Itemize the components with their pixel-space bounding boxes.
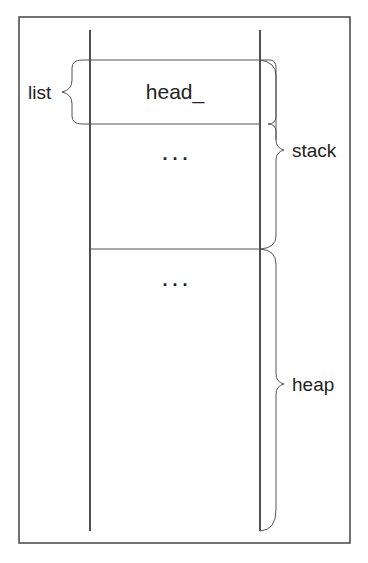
memory-diagram: list stack heap head_ . . . . . .: [0, 0, 368, 563]
head-cell-label: head_: [146, 80, 205, 104]
list-label: list: [28, 82, 52, 103]
stack-label: stack: [292, 140, 337, 161]
stack-brace: [260, 60, 284, 249]
stack-ellipsis: . . .: [162, 144, 187, 164]
heap-label: heap: [292, 374, 334, 395]
heap-brace: [260, 249, 284, 531]
heap-ellipsis: . . .: [162, 270, 187, 290]
